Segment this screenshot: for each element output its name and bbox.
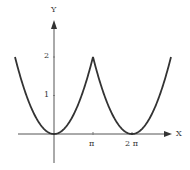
x-axis-label: X	[176, 130, 182, 138]
x-tick-label-pi: π	[89, 140, 94, 148]
x-axis	[18, 131, 172, 137]
chart-svg	[0, 0, 190, 170]
y-axis	[51, 20, 57, 163]
y-tick-label-1: 1	[44, 91, 49, 99]
y-tick-label-2: 2	[44, 52, 49, 60]
function-curve	[15, 57, 171, 134]
x-axis-arrow-icon	[164, 131, 172, 137]
y-axis-label: Y	[51, 6, 56, 14]
y-axis-arrow-icon	[51, 20, 57, 29]
x-tick-label-2pi: 2 π	[125, 140, 138, 148]
ticks	[53, 57, 132, 135]
